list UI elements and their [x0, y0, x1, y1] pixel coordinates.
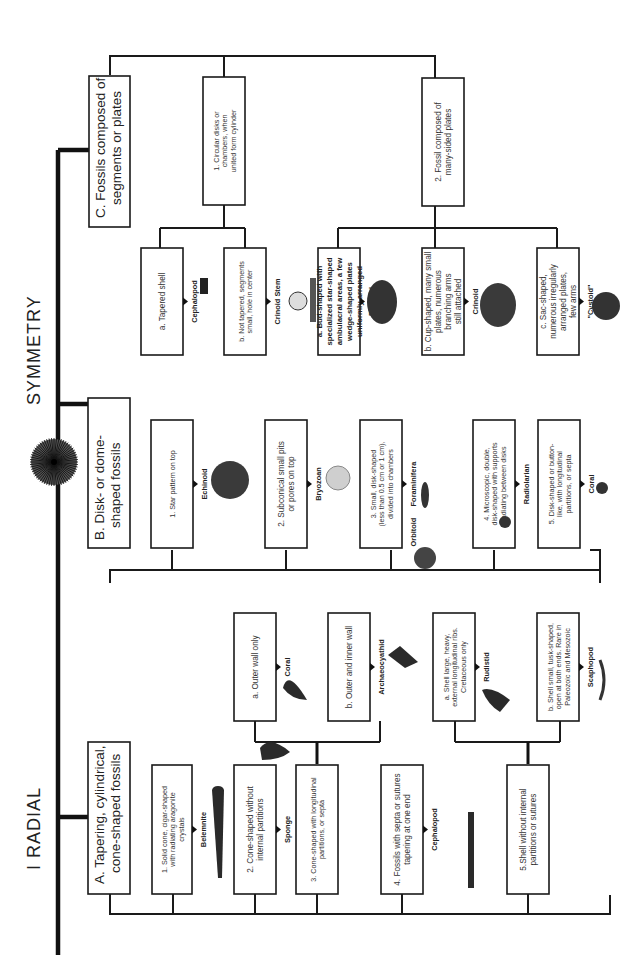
fossil-name-label: Scaphopod — [586, 646, 595, 687]
node-box — [381, 765, 423, 894]
A5-branch — [455, 721, 560, 764]
belemnite-icon — [212, 786, 224, 878]
node-b-items-3: 3. Small, disk-shaped(less than 0.5 cm o… — [360, 420, 418, 548]
group-B-box: B. Disk- or dome- shaped fossils — [88, 398, 130, 548]
archaeocyathid-icon — [388, 646, 418, 668]
pointer-arrow-icon — [370, 663, 375, 671]
node-text-line: divided into chambers — [386, 449, 395, 519]
node-text-line: b. Outer and inner wall — [345, 626, 354, 709]
node-a-items-5: 5.Shell without internalpartitions or su… — [507, 765, 549, 894]
item-boxes: 1. Solid cone, cigar-shapedwith radiatin… — [141, 77, 596, 894]
fossil-name-label: Cephalopod — [430, 808, 439, 851]
node-box — [507, 765, 549, 894]
foraminifera-icon — [414, 547, 436, 569]
node-text-line: b. Cup-shaped, many small — [424, 251, 433, 351]
fossil-name-label: Echinoid — [200, 468, 209, 500]
cephalopod-orthocone-icon — [468, 812, 474, 888]
pointer-arrow-icon — [183, 298, 188, 306]
fossil-classification-diagram: I RADIAL SYMMETRY A. Tapering, cylindric… — [0, 0, 627, 962]
node-a-items-4: 4. Fossils with septa or suturestapering… — [381, 765, 439, 894]
fossil-name-label: Coral — [283, 658, 292, 677]
node-text-line: ambulacral areas, a few — [335, 257, 344, 345]
fossil-name-label: Coral — [587, 475, 596, 494]
node-text-line: 1. Star pattern on top — [168, 450, 177, 518]
bryozoan-icon — [326, 466, 350, 490]
node-text-line: a. Outer wall only — [251, 634, 260, 698]
node-text-line: a. Bud-shaped with — [315, 266, 324, 338]
node-b-items-2: 2. Subconical small pitsor pores on topB… — [265, 420, 323, 548]
node-text-line: tapering at one end — [403, 794, 412, 865]
node-a-items-1: 1. Solid cone, cigar-shapedwith radiatin… — [152, 765, 208, 894]
scaphopod-icon — [600, 660, 604, 700]
fossil-name-label: Rudistid — [482, 652, 491, 682]
fossil-name-label-secondary: Orbitoid — [409, 517, 418, 546]
pointer-arrow-icon — [276, 663, 281, 671]
svg-text:B. Disk- or dome-: B. Disk- or dome- — [92, 435, 107, 540]
pointer-arrow-icon — [276, 826, 281, 834]
node-c2-sub-3: c. Sac-shaped,numerous irregularlyarrang… — [537, 248, 595, 355]
node-text-line: numerous irregularly — [549, 263, 558, 339]
node-c-items-2: 2. Fossil composed ofmany-sided plates — [422, 78, 464, 206]
pointer-arrow-icon — [266, 298, 271, 306]
fossil-name-label: Belemnite — [199, 812, 208, 847]
node-text-line: small, hole in center — [245, 269, 254, 334]
radiolarian-icon — [499, 516, 511, 528]
C1-branch — [160, 205, 245, 248]
pointer-arrow-icon — [515, 480, 520, 488]
node-text-line: united form cylinder — [229, 109, 238, 172]
pointer-arrow-icon — [193, 480, 198, 488]
fossil-name-label: Crinoid Stem — [273, 278, 282, 324]
node-text-line: wedge-shaped plates — [345, 261, 354, 342]
node-text-line: 2. Cone-shaped without — [246, 786, 255, 873]
node-text-line: still attached — [454, 278, 463, 324]
node-a3-sub-2: b. Outer and inner wallArchaeocyathid — [328, 613, 386, 721]
svg-text:C. Fossils composed of: C. Fossils composed of — [93, 77, 108, 218]
node-text-line: internal partitions — [256, 798, 265, 860]
node-a-items-2: 2. Cone-shaped withoutinternal partition… — [234, 765, 292, 894]
pointer-arrow-icon — [464, 298, 469, 306]
crinoid-stem-disk-icon — [289, 292, 307, 310]
node-text-line: 2. Subconical small pits — [277, 441, 286, 527]
node-box — [422, 78, 464, 206]
pointer-arrow-icon — [579, 298, 584, 306]
A-trunk — [110, 893, 610, 914]
pointer-arrow-icon — [580, 480, 585, 488]
node-text-line: c. Sac-shaped, — [539, 274, 548, 329]
node-b-items-1: 1. Star pattern on topEchinoid — [151, 420, 209, 548]
fossil-name-label: Foraminifera — [409, 461, 418, 507]
node-c1-sub-1: a. Tapered shellCephalopod — [141, 248, 199, 355]
crinoid-stem-column-icon — [310, 278, 316, 322]
node-text-line: radiating between disks — [499, 446, 508, 522]
cystoid-icon — [592, 292, 620, 320]
node-text-line: 4. Fossils with septa or sutures — [393, 773, 402, 885]
node-text-line: specialized star-shaped — [325, 257, 334, 345]
group-A-box: A. Tapering, cylindrical, cone-shaped fo… — [88, 742, 130, 894]
node-box — [265, 420, 307, 548]
fossil-name-label: Crinoid — [471, 288, 480, 314]
fossil-name-label: Archaeocyathid — [377, 639, 386, 695]
node-c1-sub-2: b. Not tapered, segmentssmall, hole in c… — [224, 248, 282, 355]
node-a-items-3: 3. Cone-shaped with longitudinalpartitio… — [296, 765, 338, 894]
node-text-line: partitions, or septa — [317, 800, 326, 859]
pointer-arrow-icon — [423, 826, 428, 834]
pointer-arrow-icon — [579, 663, 584, 671]
pointer-arrow-icon — [307, 480, 312, 488]
pointer-arrow-icon — [475, 663, 480, 671]
svg-text:segments or plates: segments or plates — [109, 91, 124, 205]
group-C-box: C. Fossils composed of segments or plate… — [89, 76, 130, 227]
node-c2-sub-2: b. Cup-shaped, many smallplates, numerou… — [422, 248, 480, 355]
blastoid-icon — [367, 280, 397, 324]
sponge-icon — [260, 742, 290, 760]
node-text-line: Paleozoic and Mesozoic — [563, 628, 572, 706]
orbitoid-icon — [421, 482, 429, 508]
B-trunk — [110, 570, 600, 583]
C2-branch — [338, 205, 557, 248]
fossil-name-label: Bryozoan — [314, 467, 323, 501]
node-box — [234, 765, 276, 894]
C-trunk — [110, 56, 435, 78]
node-b-items-4: 4. Microscopic, double,disk-shaped with … — [473, 420, 531, 548]
radial-starburst-icon — [30, 438, 78, 486]
coral-horn-icon — [283, 680, 307, 700]
node-text-line: arranged plates, — [559, 272, 568, 331]
node-text-line: partitions, or septa — [564, 454, 573, 513]
